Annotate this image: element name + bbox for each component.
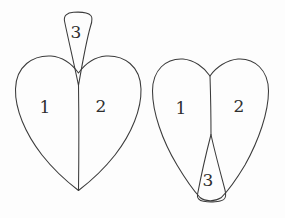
right-region-2-label: 2 (234, 96, 245, 116)
left-heart-group: 1 2 3 (15, 12, 141, 190)
figure-drawing: 1 2 3 1 2 3 (0, 0, 285, 218)
left-region-2-label: 2 (96, 96, 107, 116)
right-wedge-outline (197, 135, 225, 202)
left-region-1-label: 1 (40, 97, 51, 117)
right-region-1-label: 1 (176, 98, 187, 118)
right-region-3-label: 3 (203, 170, 214, 190)
right-center-divider (210, 76, 211, 135)
figure-container: 1 2 3 1 2 3 (0, 0, 285, 218)
right-heart-group: 1 2 3 (153, 59, 269, 202)
left-region-3-label: 3 (71, 22, 82, 42)
